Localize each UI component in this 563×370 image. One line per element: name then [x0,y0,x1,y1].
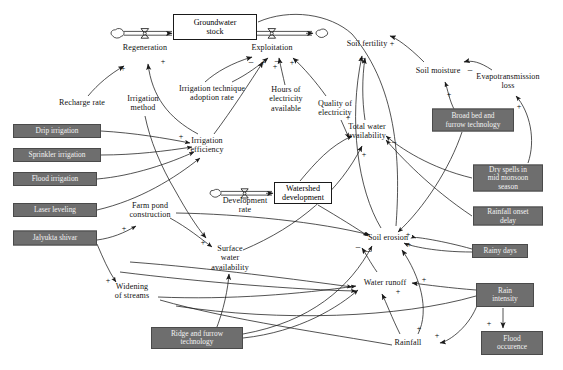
variable-quality-of-electricity: Quality of electricity [308,99,362,118]
polarity-sign: + [517,103,522,111]
polarity-sign: + [390,40,395,48]
polarity-sign: + [122,225,127,233]
variable-evapotransmission-loss: Evapotransmission loss [467,72,549,91]
intervention-drip-irrigation[interactable]: Drip irrigation [13,124,101,138]
polarity-sign: − [359,55,365,63]
valve-regeneration [141,29,149,39]
polarity-sign: + [447,91,452,99]
variable-surface-water-availability: Surface water availability [207,244,253,272]
polarity-sign: + [161,58,166,66]
polarity-sign: + [106,277,111,285]
stock-groundwater-stock[interactable]: Groundwater stock [173,14,257,40]
polarity-sign: − [248,59,254,67]
polarity-sign: + [179,133,184,141]
intervention-sprinkler-irrigation[interactable]: Sprinkler irrigation [13,148,101,162]
variable-soil-fertility: Soil fertility [337,39,397,48]
polarity-sign: − [467,67,473,75]
valve-exploitation [268,29,276,39]
variable-widening-of-streams: Widening of streams [105,282,159,301]
polarity-sign: + [362,151,367,159]
flow-label-exploitation: Exploitation [240,43,304,52]
polarity-sign: − [274,58,280,66]
polarity-sign: + [407,241,412,249]
intervention-flood-irrigation[interactable]: Flood irrigation [13,172,97,186]
intervention-jalyukta-shivar[interactable]: Jalyukta shivar [13,231,97,246]
intervention-flood-occurence[interactable]: Flood occurence [481,331,543,355]
polarity-sign: + [290,59,295,67]
variable-soil-moisture: Soil moisture [407,66,469,75]
variable-irrigation-method: Irrigation method [117,94,169,113]
intervention-dry-spells-in-mid-monsoon-season[interactable]: Dry spells in mid monsoon season [473,165,543,192]
polarity-sign: + [396,288,401,296]
intervention-rainfall-onset-delay[interactable]: Rainfall onset delay [473,207,543,226]
causal-loop-diagram: Groundwater stock Watershed development … [0,0,563,370]
polarity-sign: + [121,65,126,73]
intervention-broad-bed-and-furrow-technology[interactable]: Broad bed and furrow technology [432,109,514,132]
stock-watershed-development[interactable]: Watershed development [274,182,332,204]
variable-rainfall: Rainfall [386,338,430,347]
polarity-sign: + [487,320,492,328]
polarity-sign: + [406,231,411,239]
flow-label-regeneration: Regeneration [113,43,177,52]
variable-recharge-rate: Recharge rate [47,98,117,107]
intervention-rainy-days[interactable]: Rainy days [472,244,528,258]
cloud-sink-exploitation [316,29,328,37]
polarity-sign: + [201,239,206,247]
polarity-sign: + [435,332,440,340]
intervention-laser-leveling[interactable]: Laser leveling [13,203,97,217]
intervention-rain-intensity[interactable]: Rain intensity [476,283,534,307]
variable-water-runoff: Water runoff [354,278,416,287]
intervention-ridge-and-furrow-technology[interactable]: Ridge and furrow technology [151,327,243,349]
polarity-sign: − [366,248,372,256]
polarity-sign: + [417,325,422,333]
variable-irrigation-technique-adoption-rate: Irrigation technique adoption rate [166,84,258,103]
cloud-source-regeneration [111,28,124,38]
flow-label-development-rate: Development rate [214,196,276,215]
variable-farm-pond-construction: Farm pond construction [121,201,179,220]
polarity-sign: − [355,244,361,252]
polarity-sign: − [391,139,397,147]
variable-total-water-availability: Total water availability [338,122,396,141]
polarity-sign: + [261,59,266,67]
polarity-sign: + [346,114,351,122]
polarity-sign: + [422,276,427,284]
variable-hours-of-electricity-available: Hours of electricity available [261,85,311,113]
variable-irrigation-efficiency: Irrigation efficiency [181,136,233,155]
